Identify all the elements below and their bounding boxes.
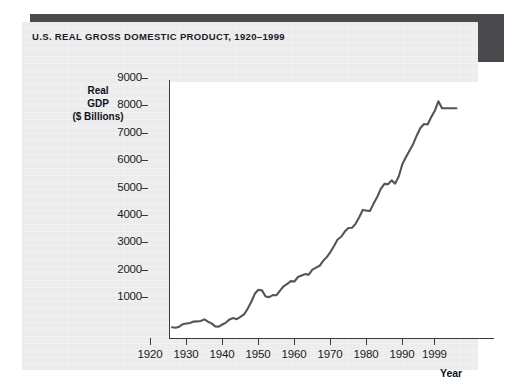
page-title: U.S. REAL GROSS DOMESTIC PRODUCT, 1920–1… (32, 31, 285, 42)
chart-plot-area (170, 82, 492, 338)
x-axis-tick-mark (150, 338, 151, 345)
y-axis-label-line-3: ($ Billions) (46, 110, 150, 123)
x-axis-tick-mark (366, 338, 367, 345)
x-axis-tick-mark (258, 338, 259, 345)
y-axis-tick-mark (141, 160, 148, 161)
y-axis-tick-mark (141, 215, 148, 216)
y-axis-tick-mark (141, 78, 148, 79)
x-axis-label: Year (440, 367, 462, 379)
y-axis-tick-label: 6000 (96, 153, 142, 165)
y-axis-line (169, 80, 170, 339)
y-axis-label-line-1: Real (46, 84, 150, 97)
y-axis-tick-mark (141, 242, 148, 243)
y-axis-tick-label: 2000 (96, 263, 142, 275)
x-axis-tick-mark (222, 338, 223, 345)
x-axis-tick-mark (434, 338, 435, 345)
x-axis-tick-mark (186, 338, 187, 345)
y-axis-tick-label: 9000 (96, 71, 142, 83)
y-axis-tick-label: 3000 (96, 235, 142, 247)
x-axis-tick-mark (294, 338, 295, 345)
y-axis-tick-mark (141, 297, 148, 298)
y-axis-tick-label: 4000 (96, 208, 142, 220)
y-axis-tick-mark (141, 270, 148, 271)
chart-panel: U.S. REAL GROSS DOMESTIC PRODUCT, 1920–1… (22, 22, 478, 370)
y-axis-tick-label: 7000 (96, 126, 142, 138)
y-axis-tick-label: 5000 (96, 181, 142, 193)
gdp-line-chart (170, 82, 492, 338)
y-axis-tick-label: 8000 (96, 98, 142, 110)
x-axis-tick-mark (402, 338, 403, 345)
x-axis-line (169, 338, 494, 339)
y-axis-tick-mark (141, 133, 148, 134)
y-axis-tick-mark (141, 188, 148, 189)
x-axis-tick-label: 1999 (412, 348, 456, 360)
y-axis-tick-mark (141, 105, 148, 106)
plot-background (170, 82, 492, 338)
y-axis-tick-label: 1000 (96, 290, 142, 302)
x-axis-tick-mark (330, 338, 331, 345)
